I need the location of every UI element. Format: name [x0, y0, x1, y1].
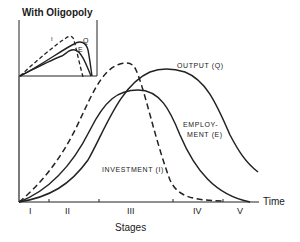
inset-title: With Oligopoly: [22, 7, 92, 18]
inset-label-output: Q: [83, 37, 88, 44]
investment-label: INVESTMENT (I): [102, 166, 164, 173]
life-cycle-chart: [0, 0, 300, 242]
time-axis-label: Time: [263, 196, 285, 207]
output-label: OUTPUT (Q): [177, 62, 224, 69]
x-axis-title: Stages: [115, 222, 146, 233]
employment-label-line2: MENT (E): [187, 131, 223, 138]
axes: [19, 76, 259, 202]
inset-employment-curve: [20, 50, 91, 76]
stage-label-5: V: [237, 206, 243, 216]
stage-label-2: II: [65, 206, 70, 216]
inset-label-employment: E: [78, 46, 83, 53]
stage-label-4: IV: [193, 206, 202, 216]
stage-label-1: I: [29, 206, 32, 216]
inset-label-investment: I: [51, 36, 53, 42]
stage-label-3: III: [127, 206, 135, 216]
inset-panel: [19, 20, 97, 77]
employment-curve: [19, 90, 250, 202]
employment-label-line1: EMPLOY-: [183, 121, 218, 128]
